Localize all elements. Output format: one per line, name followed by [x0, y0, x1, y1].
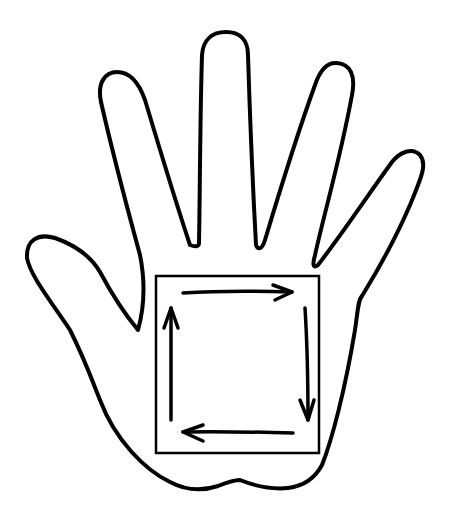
hand-outline [27, 32, 423, 489]
diagram-canvas: Hand outline with clockwise square arrow… [0, 0, 452, 520]
arrow-left-icon [183, 425, 293, 441]
palm-square [156, 276, 319, 453]
arrow-right-icon [183, 285, 292, 300]
arrow-up-icon [164, 308, 178, 420]
arrow-down-icon [300, 308, 314, 420]
hand-diagram [0, 0, 452, 520]
